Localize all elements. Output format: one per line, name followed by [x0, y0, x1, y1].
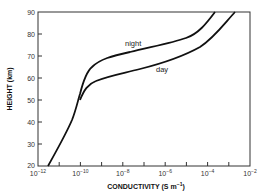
chart: 20 30 40 50 60 70 80 90 HEIGHT (km) 10−1… — [0, 0, 267, 196]
day-label: day — [156, 65, 168, 74]
y-label-30: 30 — [27, 141, 35, 148]
x-label-1e-12: 10−12 — [30, 168, 46, 177]
night-label: night — [125, 39, 142, 48]
y-label-90: 90 — [27, 9, 35, 16]
y-label-50: 50 — [27, 97, 35, 104]
y-label-60: 60 — [27, 75, 35, 82]
plot-frame — [38, 12, 250, 166]
y-label-80: 80 — [27, 31, 35, 38]
y-axis-labels: 20 30 40 50 60 70 80 90 — [27, 9, 35, 170]
y-axis-ticks — [38, 34, 42, 144]
y-axis-title: HEIGHT (km) — [6, 67, 14, 110]
y-label-20: 20 — [27, 162, 35, 169]
y-label-40: 40 — [27, 119, 35, 126]
night-curve — [48, 12, 215, 166]
x-axis-ticks — [59, 162, 229, 166]
x-label-1e-6: 10−6 — [158, 168, 172, 177]
x-axis-title: CONDUCTIVITY (S m−1) — [107, 181, 185, 191]
y-label-70: 70 — [27, 53, 35, 60]
day-curve — [80, 12, 235, 100]
x-label-1e-4: 10−4 — [201, 168, 215, 177]
x-label-1e-2: 10−2 — [243, 168, 257, 177]
x-label-1e-8: 10−8 — [116, 168, 130, 177]
x-label-1e-10: 10−10 — [72, 168, 88, 177]
x-axis-labels: 10−12 10−10 10−8 10−6 10−4 10−2 — [30, 168, 257, 177]
